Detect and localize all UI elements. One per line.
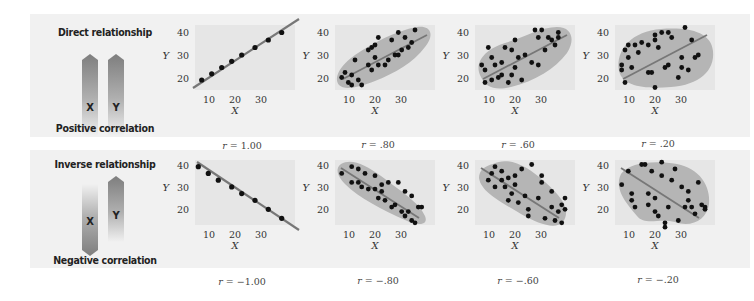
data-point bbox=[403, 189, 408, 194]
data-point bbox=[633, 43, 638, 48]
y-axis-label: Y bbox=[162, 50, 170, 61]
data-point bbox=[489, 171, 494, 176]
x-tick-label: 30 bbox=[255, 229, 267, 240]
data-point bbox=[376, 196, 381, 201]
data-point bbox=[686, 189, 691, 194]
x-tick-label: 20 bbox=[509, 94, 521, 105]
data-point bbox=[279, 30, 284, 35]
data-point bbox=[549, 189, 554, 194]
data-point bbox=[386, 58, 391, 63]
data-point bbox=[559, 220, 564, 225]
y-axis-label: Y bbox=[302, 50, 310, 61]
data-point bbox=[519, 78, 524, 83]
r-label-1: r = 1.00 bbox=[182, 140, 302, 151]
data-point bbox=[409, 40, 414, 45]
data-point bbox=[629, 65, 634, 70]
x-axis-label: X bbox=[370, 105, 379, 116]
x-tick-label: 20 bbox=[649, 94, 661, 105]
data-point bbox=[499, 169, 504, 174]
data-point bbox=[413, 28, 418, 33]
data-point bbox=[359, 185, 364, 190]
data-point bbox=[539, 180, 544, 185]
y-tick-label: 20 bbox=[177, 73, 189, 84]
x-tick-label: 30 bbox=[255, 94, 267, 105]
y-tick-label: 20 bbox=[177, 204, 189, 215]
r-label-8: r = −.20 bbox=[598, 274, 718, 285]
data-point bbox=[406, 45, 411, 50]
x-tick-label: 30 bbox=[395, 229, 407, 240]
data-point bbox=[373, 43, 378, 48]
data-point bbox=[689, 205, 694, 210]
data-point bbox=[506, 198, 511, 203]
data-point bbox=[526, 207, 531, 212]
data-point bbox=[516, 55, 521, 60]
x-tick-label: 20 bbox=[229, 229, 241, 240]
data-point bbox=[376, 63, 381, 68]
data-point bbox=[633, 205, 638, 210]
data-point bbox=[543, 216, 548, 221]
x-tick-label: 10 bbox=[623, 94, 635, 105]
data-point bbox=[556, 30, 561, 35]
data-point bbox=[553, 218, 558, 223]
data-point bbox=[653, 196, 658, 201]
x-axis-label: X bbox=[230, 105, 239, 116]
scatterplot-4: 403020Y102030X bbox=[575, 20, 725, 129]
data-point bbox=[353, 58, 358, 63]
data-point bbox=[529, 162, 534, 167]
x-axis-label: X bbox=[230, 240, 239, 251]
data-point bbox=[373, 55, 378, 60]
data-point bbox=[553, 43, 558, 48]
y-tick-label: 30 bbox=[457, 50, 469, 61]
scatterplot-5: 403020Y102030X bbox=[155, 155, 305, 264]
y-tick-label: 30 bbox=[317, 182, 329, 193]
data-point bbox=[489, 78, 494, 83]
data-point bbox=[509, 48, 514, 53]
data-point bbox=[669, 35, 674, 40]
data-point bbox=[493, 164, 498, 169]
data-point bbox=[509, 191, 514, 196]
data-point bbox=[519, 167, 524, 172]
data-point bbox=[673, 167, 678, 172]
y-tick-label: 40 bbox=[457, 160, 469, 171]
data-point bbox=[396, 53, 401, 58]
y-tick-label: 20 bbox=[457, 204, 469, 215]
data-point bbox=[659, 30, 664, 35]
scatterplot-8: 403020Y102030X bbox=[575, 155, 725, 264]
data-point bbox=[379, 182, 384, 187]
data-point bbox=[339, 75, 344, 80]
data-point bbox=[489, 55, 494, 60]
x-tick-label: 30 bbox=[535, 229, 547, 240]
data-point bbox=[506, 80, 511, 85]
data-point bbox=[703, 207, 708, 212]
data-point bbox=[483, 80, 488, 85]
data-point bbox=[359, 83, 364, 88]
data-point bbox=[349, 180, 354, 185]
x-tick-label: 20 bbox=[229, 94, 241, 105]
data-point bbox=[623, 80, 628, 85]
y-tick-label: 20 bbox=[317, 204, 329, 215]
data-point bbox=[619, 68, 624, 73]
data-point bbox=[413, 220, 418, 225]
data-point bbox=[649, 169, 654, 174]
data-point bbox=[509, 73, 514, 78]
data-point bbox=[676, 218, 681, 223]
data-point bbox=[373, 173, 378, 178]
data-point bbox=[626, 43, 631, 48]
x-tick-label: 10 bbox=[483, 229, 495, 240]
x-tick-label: 20 bbox=[509, 229, 521, 240]
data-point bbox=[683, 25, 688, 30]
data-point bbox=[629, 191, 634, 196]
arrow-y-label: Y bbox=[108, 102, 124, 113]
data-point bbox=[549, 205, 554, 210]
y-axis-label: Y bbox=[442, 182, 450, 193]
r-label-5: r = −1.00 bbox=[182, 276, 302, 287]
data-point bbox=[266, 37, 271, 42]
plot-area bbox=[195, 25, 295, 90]
data-point bbox=[666, 30, 671, 35]
data-point bbox=[679, 55, 684, 60]
x-tick-label: 20 bbox=[649, 229, 661, 240]
r-label-3: r = .60 bbox=[458, 139, 578, 150]
data-point bbox=[653, 38, 658, 43]
data-point bbox=[389, 38, 394, 43]
y-tick-label: 30 bbox=[177, 50, 189, 61]
